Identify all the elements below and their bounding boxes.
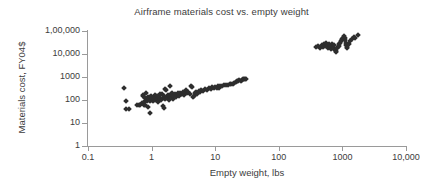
data-point-marker [121,85,127,91]
y-axis-tick [82,54,87,55]
y-axis-tick-label: 10,000 [20,48,80,58]
y-axis-tick-label-wrap: 10 [16,117,80,129]
x-axis-tick-label: 10 [185,152,245,162]
y-axis-title: Materials cost, FY04$ [16,23,27,153]
x-axis-tick [152,146,153,151]
x-axis-tick [406,146,407,151]
data-point-marker [126,106,132,112]
data-point-marker [161,105,167,111]
x-axis-tick-label: 100 [249,152,309,162]
data-point-marker [123,98,129,104]
y-axis-tick-label: 1 [20,140,80,150]
x-axis-tick-label: 1000 [312,152,372,162]
y-axis-tick-label: 100 [20,94,80,104]
y-axis-tick [82,123,87,124]
y-axis-tick-label-wrap: 10,000 [16,48,80,60]
y-axis-tick-label: 10 [20,117,80,127]
data-point-marker [189,84,195,90]
y-axis-tick-label: 1,00,000 [20,25,80,35]
x-axis-line [87,146,406,147]
x-axis-tick [279,146,280,151]
y-axis-tick-label-wrap: 1000 [16,71,80,83]
y-axis-tick [82,100,87,101]
chart-figure: Airframe materials cost vs. empty weight… [0,0,443,193]
x-axis-tick-label: 10,000 [376,152,436,162]
chart-title: Airframe materials cost vs. empty weight [0,6,443,17]
x-axis-tick [88,146,89,151]
y-axis-tick-label-wrap: 1 [16,140,80,152]
y-axis-tick [82,77,87,78]
x-axis-tick [342,146,343,151]
y-axis-tick-label: 1000 [20,71,80,81]
plot-area [88,31,406,146]
x-axis-title: Empty weight, lbs [88,167,406,178]
y-axis-tick [82,31,87,32]
x-axis-tick-label: 1 [122,152,182,162]
x-axis-tick [215,146,216,151]
y-axis-tick [82,146,87,147]
y-axis-tick-label-wrap: 1,00,000 [16,25,80,37]
data-point-marker [147,110,153,116]
y-axis-tick-label-wrap: 100 [16,94,80,106]
data-point-marker [167,83,173,89]
x-axis-tick-label: 0.1 [58,152,118,162]
